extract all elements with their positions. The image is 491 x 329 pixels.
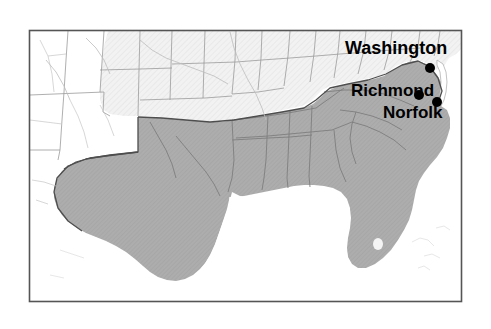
- map-container: Washington Richmond Norfolk: [0, 0, 491, 329]
- lake-okeechobee: [373, 238, 383, 250]
- map-body: [29, 30, 462, 302]
- region-plains-west: [100, 31, 140, 116]
- city-label-norfolk: Norfolk: [383, 104, 443, 121]
- city-dot-washington: [425, 63, 435, 73]
- city-dot-norfolk: [432, 97, 442, 107]
- city-label-washington: Washington: [345, 39, 447, 57]
- city-dot-richmond: [414, 90, 424, 100]
